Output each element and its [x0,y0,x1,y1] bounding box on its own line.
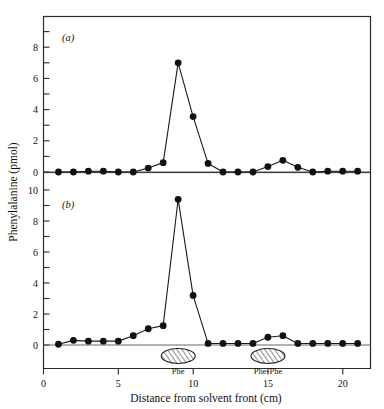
panel-b-point [205,340,212,347]
panel-a-point [324,168,331,175]
panel-b-point [250,340,257,347]
panel-a-point [175,59,182,66]
panel-b-point [100,338,107,345]
panel-b-ytick-4: 4 [33,278,38,289]
panel-b-ytick-6: 6 [33,247,38,258]
xtick-10: 10 [188,378,198,389]
panel-a-point [130,169,137,176]
panel-b-point [265,334,272,341]
panel-b-point [70,337,77,344]
panel-b-point [190,292,197,299]
xtick-15: 15 [263,378,273,389]
panel-a-point [190,113,197,120]
panel-a-y-ticks: 0 2 4 6 8 [33,17,50,178]
panel-b-series [55,196,361,348]
panel-a-point [294,164,301,171]
panel-a-point [70,169,77,176]
spot-phe-phe: Phe-Phe [251,349,285,376]
y-axis-title: Phenylalanine (pmol) [7,142,20,241]
panel-b-ytick-10: 10 [28,185,38,196]
panel-b-point [160,322,167,329]
panel-b-point [339,340,346,347]
panel-a-point [160,159,167,166]
panel-a-ytick-6: 6 [33,73,38,84]
chart-svg: 0 2 4 6 8 0 2 4 6 [0,0,384,409]
panel-b-point [235,340,242,347]
xtick-20: 20 [338,378,348,389]
panel-a-point [235,169,242,176]
panel-b-point [85,338,92,345]
panel-a-series [55,59,361,175]
panel-b-point [294,340,301,347]
spot-phe-label: Phe [172,366,185,376]
panel-b-y-ticks: 0 2 4 6 8 10 [28,185,50,351]
panel-b-point [220,340,227,347]
panel-b-point [130,332,137,339]
panel-b-point [55,341,62,348]
panel-a-point [220,169,227,176]
panel-a-point [55,169,62,176]
panel-a-label: (a) [62,32,75,44]
panel-b-line [58,199,357,344]
panel-a-ytick-4: 4 [33,104,38,115]
x-axis-title: Distance from solvent front (cm) [130,392,282,405]
panel-a-point [100,168,107,175]
xtick-0: 0 [41,378,46,389]
panel-b-point [279,332,286,339]
panel-a-ytick-8: 8 [33,42,38,53]
panel-a-point [309,169,316,176]
panel-a-ytick-0: 0 [33,167,38,178]
panel-b-point [324,340,331,347]
panel-a-point [354,168,361,175]
panel-b-point [145,325,152,332]
panel-b-point [309,340,316,347]
x-axis-ticks: 0 5 10 15 20 [41,369,348,390]
panel-a-line [58,63,357,172]
panel-a-ytick-2: 2 [33,135,38,146]
panel-b-point [354,340,361,347]
panel-a-point [279,157,286,164]
panel-a-point [250,169,257,176]
spot-markers: Phe Phe-Phe [161,349,285,376]
panel-a-point [265,163,272,170]
panel-a-point [339,168,346,175]
panel-b-ytick-8: 8 [33,216,38,227]
spot-phe: Phe [161,349,195,376]
panel-a-point [115,169,122,176]
spot-phe-phe-label: Phe-Phe [254,366,283,376]
panel-a-frame [44,17,371,173]
figure-container: 0 2 4 6 8 0 2 4 6 [0,0,384,409]
panel-b-point [175,196,182,203]
xtick-5: 5 [116,378,121,389]
panel-b-label: (b) [62,199,75,211]
panel-b-point [115,338,122,345]
panel-a-point [145,165,152,172]
panel-a-point [85,168,92,175]
panel-b-ytick-0: 0 [33,340,38,351]
panel-a-point [205,160,212,167]
panel-b-ytick-2: 2 [33,309,38,320]
